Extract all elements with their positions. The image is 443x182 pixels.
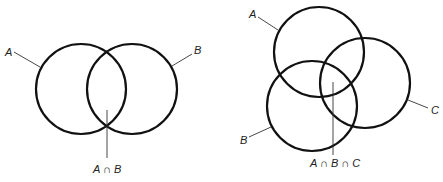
set-a-leader-line <box>14 52 40 67</box>
set-a-leader-line <box>258 17 278 30</box>
set-b-label: B <box>240 134 247 146</box>
set-b-label: B <box>194 44 201 56</box>
triple-intersection-label: A ∩ B ∩ C <box>309 157 360 169</box>
set-a-label: A <box>4 46 12 58</box>
set-c-label: C <box>431 104 439 116</box>
set-b-leader-line <box>249 127 271 137</box>
set-b-leader-line <box>172 54 192 66</box>
set-b-circle <box>267 61 357 151</box>
set-a-circle <box>36 44 126 134</box>
set-a-label: A <box>248 8 256 20</box>
two-set-venn-diagram: A B A ∩ B <box>4 44 201 175</box>
set-b-circle <box>87 44 177 134</box>
three-set-venn-diagram: A B C A ∩ B ∩ C <box>240 7 439 169</box>
venn-diagrams: A B A ∩ B A B C A ∩ B ∩ C <box>0 0 443 182</box>
set-c-leader-line <box>408 100 428 108</box>
intersection-label: A ∩ B <box>92 163 121 175</box>
